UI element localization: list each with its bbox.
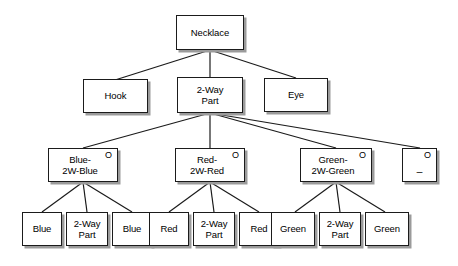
node-blue-left[interactable]: Blue: [22, 212, 62, 246]
edge-green2wgreen-greenleft: [295, 182, 336, 212]
node-eye-label: Eye: [288, 89, 304, 100]
node-two-way-part[interactable]: 2-Way Part: [177, 77, 243, 113]
node-green-left-label: Green: [280, 223, 306, 234]
edge-necklace-hook: [115, 50, 210, 80]
optional-marker-icon: O: [359, 151, 366, 160]
edge-red2wred-redright: [210, 182, 259, 212]
edge-2wayPart-blue2wblue: [83, 113, 210, 148]
optional-marker-icon: O: [424, 151, 431, 160]
node-red-2w-red[interactable]: Red- 2W-Red O: [175, 148, 245, 182]
node-green-left[interactable]: Green: [271, 212, 315, 246]
node-two-way-part-red[interactable]: 2-Way Part: [193, 212, 235, 246]
node-green-2w-green-label: Green- 2W-Green: [312, 154, 361, 176]
node-necklace-label: Necklace: [191, 27, 229, 38]
edge-2wayPart-placeholder: [210, 113, 420, 148]
node-blue-left-label: Blue: [33, 223, 52, 234]
node-necklace[interactable]: Necklace: [176, 15, 244, 50]
edge-green2wgreen-2wayPart: [336, 182, 340, 212]
node-placeholder-label: _: [417, 162, 422, 174]
node-two-way-part-blue-label: 2-Way Part: [74, 218, 101, 240]
node-two-way-part-green-label: 2-Way Part: [327, 218, 354, 240]
node-two-way-part-label: 2-Way Part: [197, 84, 224, 106]
node-placeholder[interactable]: _ O: [402, 148, 437, 182]
node-red-2w-red-label: Red- 2W-Red: [190, 154, 230, 176]
node-hook-label: Hook: [105, 90, 127, 101]
node-blue-2w-blue[interactable]: Blue- 2W-Blue O: [48, 148, 118, 182]
node-two-way-part-blue[interactable]: 2-Way Part: [66, 212, 108, 246]
decomposition-tree-diagram: Necklace Hook 2-Way Part Eye Blue- 2W-Bl…: [0, 0, 458, 266]
node-green-2w-green[interactable]: Green- 2W-Green O: [300, 148, 372, 182]
node-green-right[interactable]: Green: [365, 212, 409, 246]
node-red-right-label: Red: [250, 223, 267, 234]
edge-necklace-eye: [210, 50, 296, 78]
node-two-way-part-green[interactable]: 2-Way Part: [319, 212, 361, 246]
optional-marker-icon: O: [232, 151, 239, 160]
node-blue-right[interactable]: Blue: [112, 212, 152, 246]
edge-blue2wblue-blueleft: [42, 182, 83, 212]
node-blue-right-label: Blue: [123, 223, 142, 234]
edge-2wayPart-green2wgreen: [210, 113, 336, 148]
edge-red2wred-2wayPart: [210, 182, 214, 212]
edge-blue2wblue-2wayPart: [83, 182, 87, 212]
node-red-left-label: Red: [160, 223, 177, 234]
edge-green2wgreen-greenright: [336, 182, 385, 212]
edge-red2wred-redleft: [169, 182, 210, 212]
node-blue-2w-blue-label: Blue- 2W-Blue: [62, 154, 104, 176]
optional-marker-icon: O: [105, 151, 112, 160]
node-eye[interactable]: Eye: [264, 78, 328, 112]
node-two-way-part-red-label: 2-Way Part: [201, 218, 228, 240]
node-red-left[interactable]: Red: [149, 212, 189, 246]
node-green-right-label: Green: [374, 223, 400, 234]
node-hook[interactable]: Hook: [83, 79, 148, 113]
edge-blue2wblue-blueright: [83, 182, 132, 212]
